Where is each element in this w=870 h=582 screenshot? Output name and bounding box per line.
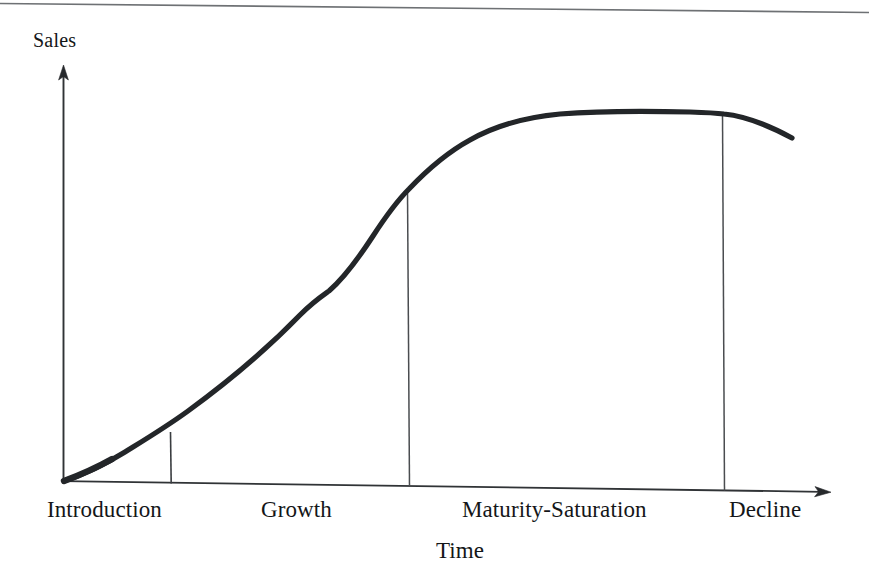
product-life-cycle-diagram bbox=[0, 0, 870, 582]
product-life-cycle-curve-origin-weight bbox=[64, 459, 112, 481]
y-axis-label: Sales bbox=[33, 30, 76, 50]
page-edge-line bbox=[0, 4, 869, 13]
stage-divider-growth-maturity bbox=[408, 190, 410, 487]
stage-divider-introduction-growth bbox=[171, 432, 172, 484]
x-axis-label: Time bbox=[436, 539, 484, 562]
product-life-cycle-curve bbox=[64, 111, 792, 481]
figure-canvas: Sales Time Introduction Growth Maturity-… bbox=[0, 0, 870, 582]
stage-label-decline: Decline bbox=[729, 498, 801, 521]
stage-label-introduction: Introduction bbox=[47, 498, 162, 521]
stage-divider-maturity-decline bbox=[723, 114, 725, 491]
stage-label-maturity-saturation: Maturity-Saturation bbox=[462, 498, 647, 521]
x-axis-line bbox=[63, 481, 822, 492]
stage-label-growth: Growth bbox=[261, 498, 332, 521]
